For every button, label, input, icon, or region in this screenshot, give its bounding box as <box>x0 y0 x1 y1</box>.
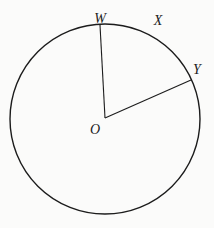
circle-diagram-canvas: W X Y O <box>0 0 214 228</box>
label-point-x: X <box>153 13 163 28</box>
diagram-background <box>0 0 214 228</box>
label-center-o: O <box>90 122 100 137</box>
label-point-w: W <box>94 11 107 26</box>
geometry-diagram: W X Y O <box>0 0 214 228</box>
